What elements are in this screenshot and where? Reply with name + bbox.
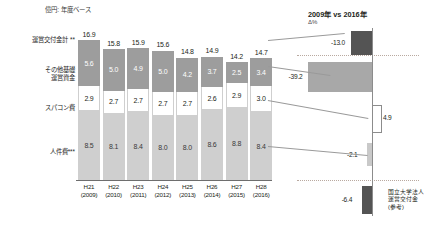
x-tick-label: H21(2009) (76, 183, 102, 199)
bar-segment-value: 4.9 (134, 65, 143, 72)
delta-legend-line3: (参考) (388, 204, 404, 210)
delta-bar-value: 4.9 (383, 114, 392, 121)
bar-segment-value: 8.1 (109, 143, 118, 150)
bar-segment-value: 8.0 (158, 144, 167, 151)
bar-segment-value: 4.2 (183, 71, 192, 78)
bar-segment-value: 2.7 (134, 97, 143, 104)
bar-segment: 2.7 (127, 89, 149, 111)
x-tick-era: H26 (207, 183, 218, 190)
bar-segment-value: 5.0 (158, 68, 167, 75)
x-axis-line (76, 180, 272, 181)
delta-bar (362, 186, 372, 214)
x-tick-year: (2013) (174, 191, 200, 199)
bar-segment: 3.0 (250, 86, 272, 111)
bar-segment-value: 2.7 (158, 100, 167, 107)
row-label-other: その他基礎 運営資金 (0, 66, 75, 81)
row-label-other-line1: その他基礎 (45, 66, 75, 73)
x-tick-year: (2010) (101, 191, 127, 199)
x-tick-label: H23(2011) (125, 183, 151, 199)
bar-total-label: 15.6 (152, 41, 174, 48)
delta-legend-reference: 国立大学法人 運営交付金 (参考) (388, 189, 424, 211)
x-tick-era: H25 (182, 183, 193, 190)
bar-segment-value: 2.5 (232, 69, 241, 76)
bar-total-label: 15.8 (103, 40, 125, 47)
bar-segment: 8.6 (201, 109, 223, 180)
bar-segment-value: 8.8 (232, 140, 241, 147)
bar-segment: 2.7 (152, 92, 174, 114)
bar-segment-value: 2.9 (84, 95, 93, 102)
x-tick-era: H23 (133, 183, 144, 190)
bar-segment: 2.9 (226, 83, 248, 107)
bar-segment: 8.1 (103, 113, 125, 180)
row-label-total: 運営交付金計 ** (0, 36, 75, 44)
bar-segment-value: 8.5 (84, 142, 93, 149)
x-tick-era: H28 (256, 183, 267, 190)
x-tick-year: (2015) (224, 191, 250, 199)
bar-segment-value: 2.7 (183, 100, 192, 107)
bar-segment: 2.5 (226, 62, 248, 83)
bar-segment-value: 5.0 (109, 66, 118, 73)
bar-segment-value: 2.7 (109, 98, 118, 105)
delta-legend-line2: 運営交付金 (388, 196, 418, 202)
x-tick-label: H25(2013) (174, 183, 200, 199)
bar-segment: 8.0 (152, 115, 174, 181)
bar-segment-value: 3.4 (257, 69, 266, 76)
bar-segment: 5.0 (152, 51, 174, 92)
bar-segment: 2.7 (176, 92, 198, 114)
bar-segment: 2.6 (201, 87, 223, 109)
x-tick-label: H22(2010) (101, 183, 127, 199)
delta-panel-subtitle: Δ% (308, 19, 317, 25)
connector-line (268, 100, 368, 119)
bar-segment-value: 2.9 (232, 92, 241, 99)
delta-dotted-line-top (297, 55, 419, 56)
bar-segment-value: 5.6 (84, 60, 93, 67)
bar-segment: 5.6 (78, 40, 100, 86)
delta-bar (308, 62, 372, 92)
bar-segment-value: 8.6 (207, 141, 216, 148)
delta-legend-line1: 国立大学法人 (388, 189, 424, 195)
unit-note: 億円: 年度ベース (45, 5, 91, 14)
x-tick-label: H28(2016) (248, 183, 274, 199)
bar-segment-value: 3.0 (257, 95, 266, 102)
row-label-jinken: 人件費*** (0, 148, 75, 156)
x-tick-year: (2014) (199, 191, 225, 199)
delta-bar-value: -6.4 (342, 196, 353, 203)
delta-bar-value: -13.0 (331, 39, 345, 46)
bar-total-label: 15.9 (127, 39, 149, 46)
delta-bar-value: -39.2 (288, 73, 302, 80)
bar-segment: 8.4 (127, 111, 149, 181)
delta-bar (351, 31, 372, 55)
delta-panel-title: 2009年 vs 2016年 (308, 9, 367, 19)
row-label-spacon: スパコン費 (0, 104, 75, 112)
x-tick-era: H27 (231, 183, 242, 190)
bar-segment: 4.9 (127, 48, 149, 89)
bar-segment: 8.5 (78, 110, 100, 180)
x-tick-era: H22 (108, 183, 119, 190)
x-tick-year: (2016) (248, 191, 274, 199)
bar-segment: 3.7 (201, 57, 223, 88)
bar-total-label: 14.7 (250, 49, 272, 56)
row-label-other-line2: 運営資金 (51, 74, 75, 81)
bar-segment-value: 3.7 (207, 68, 216, 75)
bar-segment-value: 8.4 (134, 143, 143, 150)
x-tick-label: H26(2014) (199, 183, 225, 199)
x-tick-year: (2011) (125, 191, 151, 199)
x-tick-label: H24(2012) (150, 183, 176, 199)
bar-segment: 2.9 (78, 86, 100, 110)
bar-total-label: 14.8 (176, 48, 198, 55)
bar-segment: 8.0 (176, 115, 198, 181)
bar-segment-value: 8.4 (257, 143, 266, 150)
x-tick-era: H24 (157, 183, 168, 190)
bar-segment: 8.8 (226, 107, 248, 180)
delta-bar (372, 105, 382, 133)
chart-page: 億円: 年度ベース 運営交付金計 ** その他基礎 運営資金 スパコン費 人件費… (0, 0, 431, 227)
x-tick-year: (2012) (150, 191, 176, 199)
x-tick-year: (2009) (76, 191, 102, 199)
bar-segment: 3.4 (250, 58, 272, 86)
x-tick-label: H27(2015) (224, 183, 250, 199)
bar-segment-value: 8.0 (183, 144, 192, 151)
bar-total-label: 14.9 (201, 47, 223, 54)
bar-segment: 4.2 (176, 58, 198, 93)
bar-total-label: 16.9 (78, 31, 100, 38)
x-tick-era: H21 (84, 183, 95, 190)
